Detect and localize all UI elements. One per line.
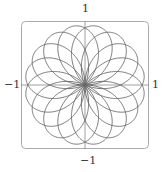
tick-label-bottom: −1 xyxy=(80,155,96,166)
tick-label-right: 1 xyxy=(152,79,159,90)
tick-label-top: 1 xyxy=(82,3,89,14)
polar-rose-plot xyxy=(0,0,163,172)
tick-label-left: −1 xyxy=(4,79,20,90)
